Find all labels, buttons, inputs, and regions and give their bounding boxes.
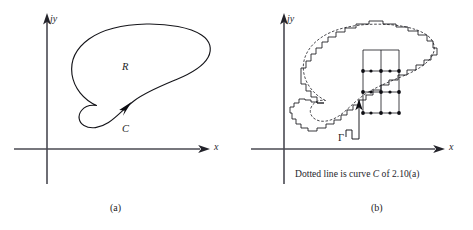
caption-prefix: Dotted line is curve — [295, 168, 373, 179]
x-axis-a — [14, 145, 210, 153]
node-dot — [397, 90, 401, 94]
region-label-r: R — [122, 62, 128, 73]
panel-b: jy x Γ Dotted line is curve C of 2.10(a)… — [237, 0, 473, 230]
y-axis-label-a: jy — [50, 14, 57, 24]
panel-a-drawing — [0, 0, 237, 230]
y-axis-label-b: jy — [287, 14, 294, 24]
gamma-leader-line — [346, 108, 359, 139]
figure-container: jy x R C (a) — [0, 0, 473, 230]
node-dot — [369, 111, 372, 114]
node-dot — [388, 69, 391, 72]
boundary-label-gamma: Γ — [338, 133, 344, 144]
node-dot — [369, 69, 372, 72]
curve-direction-arrowhead-icon — [119, 102, 131, 116]
node-dot — [369, 90, 372, 93]
node-dot — [397, 69, 401, 73]
dotted-curve-c-reference — [303, 24, 434, 121]
dotted-line-caption: Dotted line is curve C of 2.10(a) — [295, 169, 419, 179]
node-dot — [388, 111, 391, 114]
node-dot — [379, 111, 383, 115]
y-axis-b — [280, 13, 288, 184]
subcaption-b: (b) — [371, 203, 383, 213]
x-axis-label-a: x — [214, 142, 218, 152]
node-dot — [379, 90, 383, 94]
node-dot — [361, 90, 365, 94]
node-dot — [361, 111, 365, 115]
node-dot — [379, 69, 383, 73]
node-dot — [388, 90, 391, 93]
panel-a: jy x R C (a) — [0, 0, 237, 230]
panel-b-drawing — [237, 0, 473, 230]
x-axis-label-b: x — [449, 142, 453, 152]
x-axis-b — [251, 145, 445, 153]
caption-suffix: of 2.10(a) — [379, 168, 419, 179]
grid-cells — [363, 50, 399, 113]
contour-curve-c — [72, 24, 211, 128]
y-axis-a — [43, 13, 51, 184]
node-dot — [397, 111, 401, 115]
subcaption-a: (a) — [110, 203, 121, 213]
node-dot — [361, 69, 365, 73]
curve-label-c: C — [122, 124, 129, 135]
